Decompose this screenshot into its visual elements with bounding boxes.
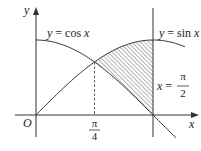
svg-text:π: π bbox=[180, 70, 186, 82]
cos-curve-label: y = cos x bbox=[46, 26, 90, 40]
shaded-region bbox=[95, 40, 154, 115]
svg-text:π: π bbox=[92, 117, 98, 129]
y-axis-arrow-icon bbox=[33, 7, 39, 15]
x-axis-label: x bbox=[188, 117, 195, 131]
diagram: y = cos x y = sin x y x O π 4 x = π 2 bbox=[0, 0, 201, 151]
svg-text:2: 2 bbox=[180, 87, 186, 99]
sin-curve-label: y = sin x bbox=[158, 26, 200, 40]
vertical-line-label: x = π 2 bbox=[156, 70, 189, 99]
diagram-svg: y = cos x y = sin x y x O π 4 x = π 2 bbox=[0, 0, 201, 151]
svg-text:4: 4 bbox=[92, 130, 98, 142]
svg-text:x =: x = bbox=[156, 79, 172, 93]
sin-curve bbox=[36, 40, 185, 115]
y-axis-label: y bbox=[23, 3, 30, 17]
y-axis bbox=[33, 7, 39, 137]
tick-label-pi-over-4: π 4 bbox=[89, 117, 100, 142]
x-axis bbox=[15, 112, 199, 118]
origin-label: O bbox=[23, 116, 32, 130]
